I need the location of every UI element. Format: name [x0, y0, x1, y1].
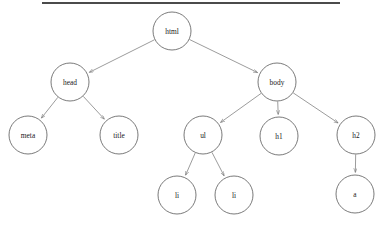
edge-ul-to-li2: [212, 152, 224, 175]
tree-node-ul[interactable]: ul: [184, 116, 222, 154]
node-label-h2: h2: [352, 131, 360, 140]
edge-body-to-h2: [293, 93, 338, 123]
node-label-body: body: [270, 78, 285, 87]
edge-body-to-ul: [221, 93, 262, 122]
node-label-ul: ul: [200, 131, 206, 140]
edge-html-to-body: [190, 40, 258, 73]
tree-node-h1[interactable]: h1: [260, 117, 298, 155]
node-label-li2: li: [232, 191, 236, 200]
tree-node-li2[interactable]: li: [215, 176, 253, 214]
node-label-title: title: [113, 131, 125, 140]
node-label-meta: meta: [21, 131, 36, 140]
tree-node-title[interactable]: title: [100, 116, 138, 154]
tree-node-meta[interactable]: meta: [9, 116, 47, 154]
tree-node-head[interactable]: head: [51, 63, 89, 101]
tree-node-li1[interactable]: li: [158, 176, 196, 214]
diagram-canvas: htmlheadbodymetatitleulh1h2lilia: [0, 0, 384, 228]
node-layer: htmlheadbodymetatitleulh1h2lilia: [9, 12, 375, 214]
edge-html-to-head: [89, 40, 154, 73]
dom-tree-graph: htmlheadbodymetatitleulh1h2lilia: [0, 0, 384, 228]
edge-head-to-meta: [41, 97, 57, 118]
edge-ul-to-li1: [186, 153, 196, 175]
tree-node-h2[interactable]: h2: [337, 116, 375, 154]
tree-node-body[interactable]: body: [258, 63, 296, 101]
node-label-li1: li: [175, 191, 179, 200]
node-label-h1: h1: [275, 132, 283, 141]
node-label-html: html: [165, 27, 179, 36]
tree-node-html[interactable]: html: [153, 12, 191, 50]
tree-node-a[interactable]: a: [336, 175, 374, 213]
edge-head-to-title: [83, 96, 104, 119]
node-label-head: head: [63, 78, 77, 87]
edge-layer: [41, 40, 355, 176]
